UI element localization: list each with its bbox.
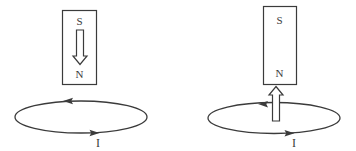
current-label: I [96, 136, 100, 150]
left-diagram: S N I [15, 11, 147, 151]
current-label: I [292, 136, 296, 150]
pole-label-n: N [276, 67, 284, 79]
arrow-up-icon [269, 87, 283, 122]
induction-diagram-svg: S N I S N I [0, 0, 356, 151]
current-loop [15, 101, 147, 133]
pole-label-s: S [276, 14, 282, 26]
pole-label-s: S [76, 15, 82, 27]
arrowhead-left-icon [258, 101, 268, 108]
physics-figure: S N I S N I [0, 0, 356, 151]
pole-label-n: N [76, 68, 84, 80]
right-diagram: S N I [208, 7, 340, 151]
